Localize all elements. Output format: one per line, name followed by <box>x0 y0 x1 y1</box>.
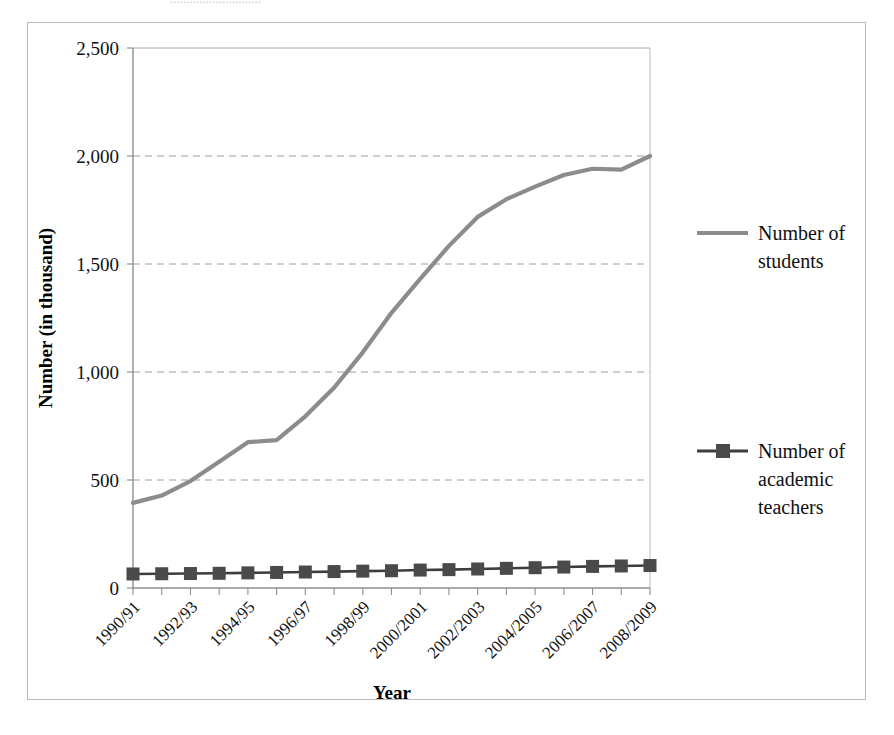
y-axis-tick-label: 1,000 <box>76 362 119 383</box>
y-axis-tick-label: 2,500 <box>76 38 119 59</box>
chart-legend: Number of students Number of academic te… <box>697 222 846 518</box>
legend-label-teachers-line2: academic <box>758 468 834 490</box>
teachers-marker <box>471 562 484 575</box>
teachers-marker <box>155 567 168 580</box>
teachers-marker <box>127 567 140 580</box>
legend-item-students: Number of students <box>697 222 846 272</box>
teachers-marker <box>529 561 542 574</box>
y-axis-tick-label: 500 <box>91 470 120 491</box>
plot-wrapper: 05001,0001,5002,0002,500 1990/911992/931… <box>0 0 894 735</box>
x-axis-tick-label: 1992/93 <box>148 597 201 650</box>
plot-area-background <box>133 48 650 588</box>
x-axis-tick-label: 1996/97 <box>263 597 316 650</box>
x-axis-tick-label: 2008/2009 <box>596 597 661 662</box>
x-axis-tick-label: 2004/2005 <box>481 597 546 662</box>
x-axis-tick-label: 2006/2007 <box>539 597 604 662</box>
x-axis-tick-label: 1994/95 <box>206 597 259 650</box>
y-axis-title: Number (in thousand) <box>35 228 57 408</box>
teachers-marker <box>442 563 455 576</box>
y-axis-tick-label: 2,000 <box>76 146 119 167</box>
legend-label-students-line2: students <box>758 250 824 272</box>
teachers-marker <box>241 566 254 579</box>
y-axis-tick-label: 0 <box>110 578 120 599</box>
x-axis-tick-label: 2002/2003 <box>424 597 489 662</box>
y-axis-ticks <box>127 48 133 588</box>
legend-label-teachers-line1: Number of <box>758 440 846 462</box>
teachers-marker <box>356 565 369 578</box>
teachers-marker <box>328 565 341 578</box>
teachers-marker <box>270 566 283 579</box>
teachers-marker <box>586 560 599 573</box>
teachers-marker <box>557 561 570 574</box>
x-axis-ticks <box>133 588 650 595</box>
x-axis-tick-labels: 1990/911992/931994/951996/971998/992000/… <box>91 597 661 662</box>
teachers-marker <box>414 564 427 577</box>
y-axis-tick-labels: 05001,0001,5002,0002,500 <box>76 38 119 599</box>
teachers-marker <box>299 566 312 579</box>
legend-item-teachers: Number of academic teachers <box>697 440 846 518</box>
legend-swatch-teachers-marker <box>716 444 730 458</box>
x-axis-tick-label: 1998/99 <box>321 597 374 650</box>
x-axis-tick-label: 2000/2001 <box>366 597 431 662</box>
teachers-marker <box>385 564 398 577</box>
teachers-marker <box>500 562 513 575</box>
legend-label-students-line1: Number of <box>758 222 846 244</box>
teachers-marker <box>213 567 226 580</box>
x-axis-tick-label: 1990/91 <box>91 597 144 650</box>
figure-root: ............................ 05001,0001,… <box>0 0 894 735</box>
x-axis-title: Year <box>373 682 412 703</box>
y-axis-tick-label: 1,500 <box>76 254 119 275</box>
teachers-marker <box>644 559 657 572</box>
line-chart: 05001,0001,5002,0002,500 1990/911992/931… <box>0 0 894 735</box>
legend-label-teachers-line3: teachers <box>758 496 824 518</box>
teachers-marker <box>184 567 197 580</box>
teachers-marker <box>615 559 628 572</box>
